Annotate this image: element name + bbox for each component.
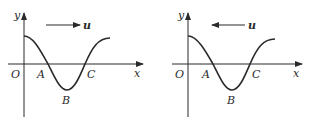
velocity-label: u (248, 19, 256, 32)
right-panel: y x O A B C u (172, 9, 302, 117)
point-a-label: A (201, 68, 210, 81)
wave-diagrams: y x O A B C u y x O A B C u (0, 0, 311, 127)
y-axis-label: y (13, 9, 21, 22)
wave-curve (24, 36, 110, 90)
left-panel: y x O A B C u (8, 9, 143, 117)
y-axis-label: y (177, 9, 185, 22)
wave-curve (188, 36, 275, 90)
point-c-label: C (87, 68, 96, 81)
velocity-label: u (83, 19, 91, 32)
point-b-label: B (226, 94, 235, 107)
point-c-label: C (252, 68, 261, 81)
x-axis-label: x (293, 67, 300, 80)
x-axis-label: x (134, 67, 141, 80)
origin-label: O (175, 68, 184, 81)
point-a-label: A (36, 68, 45, 81)
origin-label: O (11, 68, 20, 81)
point-b-label: B (61, 94, 70, 107)
